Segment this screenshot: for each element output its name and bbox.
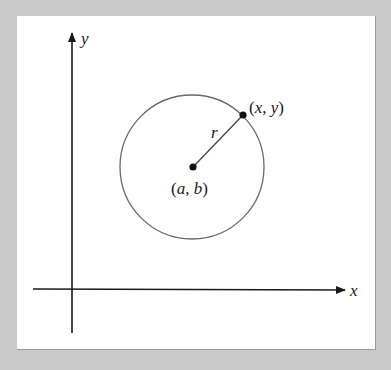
x-axis-label: x [349, 281, 358, 300]
radius-label: r [211, 123, 218, 142]
y-axis-label: y [79, 29, 89, 48]
center-point [189, 163, 196, 170]
diagram-canvas: y x r (a, b) (x, y) [0, 0, 391, 370]
point-label: (x, y) [249, 98, 284, 117]
center-label: (a, b) [171, 179, 208, 198]
circle-point [239, 111, 246, 118]
x-axis [33, 289, 345, 290]
radius-line [193, 115, 243, 167]
